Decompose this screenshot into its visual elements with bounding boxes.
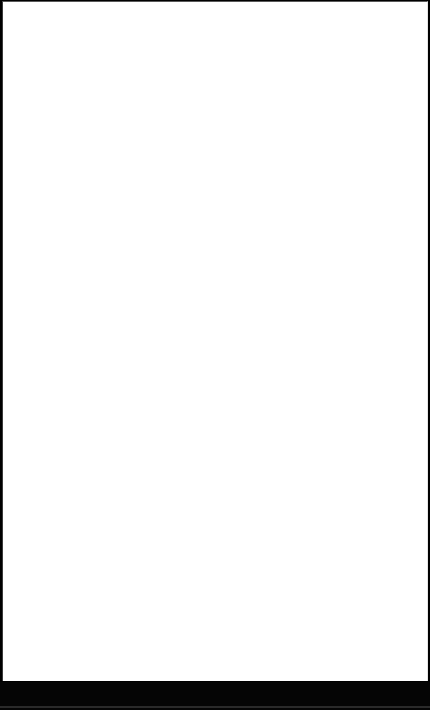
bottom-bar-edge-divider [0,706,430,708]
blank-page-viewport[interactable] [2,1,428,681]
page-content [3,2,427,681]
screen [0,0,430,710]
bottom-system-bar [0,682,430,710]
